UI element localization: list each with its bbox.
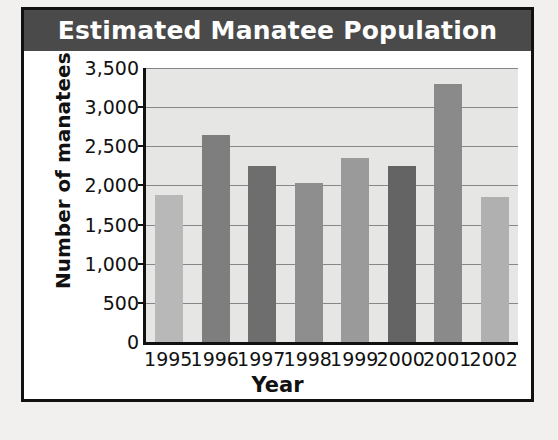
x-axis-tick-label: 1996 bbox=[191, 348, 239, 370]
x-axis-tick-label: 2001 bbox=[423, 348, 471, 370]
y-axis-tick-mark bbox=[138, 263, 146, 265]
y-axis-tick-label: 3,500 bbox=[64, 57, 139, 79]
bar-1999 bbox=[341, 158, 369, 342]
y-axis-tick-label: 0 bbox=[64, 331, 139, 353]
y-axis-tick-mark bbox=[138, 145, 146, 147]
y-axis-tick-mark bbox=[138, 302, 146, 304]
bar-1996 bbox=[202, 135, 230, 342]
x-axis-tick-label: 1998 bbox=[284, 348, 332, 370]
chart-figure-frame: Estimated Manatee Population Number of m… bbox=[21, 7, 534, 402]
bar-1998 bbox=[295, 183, 323, 342]
bar-1997 bbox=[248, 166, 276, 342]
y-axis-tick-label: 3,000 bbox=[64, 96, 139, 118]
y-axis-tick-labels: 05001,0001,5002,0002,5003,0003,500 bbox=[64, 51, 139, 347]
x-axis-tick-label: 1995 bbox=[144, 348, 192, 370]
y-axis-tick-label: 1,500 bbox=[64, 214, 139, 236]
bar-2002 bbox=[481, 197, 509, 342]
y-axis-tick-mark bbox=[138, 106, 146, 108]
y-axis-tick-label: 2,500 bbox=[64, 135, 139, 157]
y-axis-tick-mark bbox=[138, 184, 146, 186]
x-axis-tick-label: 2002 bbox=[470, 348, 518, 370]
x-axis-tick-label: 1997 bbox=[237, 348, 285, 370]
x-axis-tick-label: 2000 bbox=[377, 348, 425, 370]
bars-layer bbox=[146, 68, 518, 342]
bar-2000 bbox=[388, 166, 416, 342]
chart-body: Number of manatees 05001,0001,5002,0002,… bbox=[24, 51, 531, 399]
y-axis-tick-label: 1,000 bbox=[64, 253, 139, 275]
page-title: Estimated Manatee Population bbox=[58, 16, 498, 45]
x-axis-tick-label: 1999 bbox=[330, 348, 378, 370]
bar-2001 bbox=[434, 84, 462, 342]
x-axis-title: Year bbox=[24, 373, 531, 397]
plot-area bbox=[143, 68, 518, 345]
y-axis-tick-mark bbox=[138, 224, 146, 226]
y-axis-tick-label: 2,000 bbox=[64, 174, 139, 196]
bar-1995 bbox=[155, 195, 183, 342]
x-axis-tick-labels: 19951996199719981999200020012002 bbox=[143, 348, 518, 374]
y-axis-tick-label: 500 bbox=[64, 292, 139, 314]
chart-title-banner: Estimated Manatee Population bbox=[24, 10, 531, 51]
